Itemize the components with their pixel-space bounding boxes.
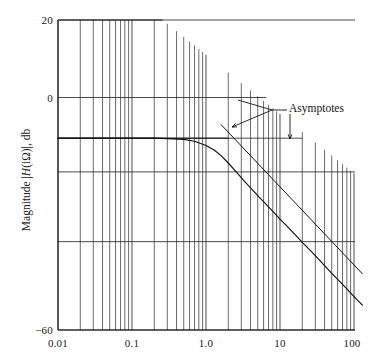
x-tick-label-0-01: 0.01 [48,337,68,349]
x-tick-label-100: 100 [343,337,360,349]
y-tick-label-minus-60: −60 [35,324,53,336]
y-tick-label-20: 20 [42,14,53,26]
x-tick-label-1-0: 1.0 [199,337,213,349]
plot-canvas [0,0,375,362]
y-axis-title-symbol: H [20,168,32,176]
y-axis-title-suffix: (iΩ)|, db [20,129,32,168]
x-tick-label-0-1: 0.1 [125,337,139,349]
x-tick-label-10: 10 [274,337,285,349]
y-tick-label-0: 0 [47,92,53,104]
data-series-layer [58,125,362,306]
y-axis-title-prefix: Magnitude | [20,176,32,231]
vertical-gridlines-group [58,20,354,330]
asymptotes-annotation-label: Asymptotes [289,102,344,114]
y-axis-title: Magnitude |H(iΩ)|, db [20,85,32,275]
bode-magnitude-figure: Magnitude |H(iΩ)|, db 20 0 −60 0.01 0.1 … [0,0,375,362]
